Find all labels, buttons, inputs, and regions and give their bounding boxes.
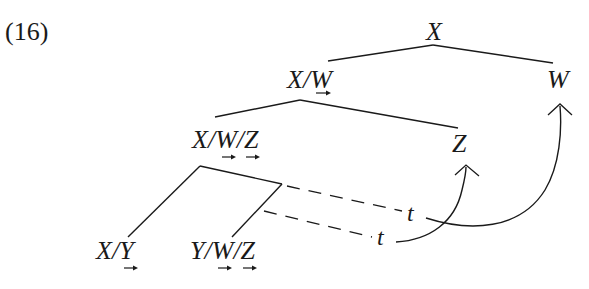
svg-text:X/W: X/W <box>286 65 334 94</box>
right-arrow-under-z-icon <box>246 155 260 160</box>
edge-corner-to-ywz <box>232 184 282 237</box>
node-x-over-w-part-x: X <box>286 65 304 94</box>
edge-apex-to-corner <box>200 166 282 184</box>
movement-arrow-to-w <box>426 106 561 226</box>
trace-lower: t <box>377 224 385 250</box>
node-w-label: W <box>547 65 571 94</box>
edge-xw-right <box>300 100 458 128</box>
trace-line-upper <box>287 186 402 211</box>
svg-text:Y/W/Z: Y/W/Z <box>190 236 256 265</box>
node-y-over-w-over-z: Y/W/Z <box>190 236 257 271</box>
edge-root-left <box>328 45 433 61</box>
right-arrow-under-y-icon <box>124 266 138 271</box>
edge-apex-to-xy <box>128 166 200 237</box>
arrowhead-to-z-icon <box>455 165 479 176</box>
syntax-tree-diagram: (16) X X/W W X/W/Z Z <box>0 0 589 289</box>
right-arrow-under-z-icon <box>243 266 257 271</box>
edge-root-right <box>433 45 553 63</box>
node-root-label: X <box>425 17 443 46</box>
right-arrow-under-w-icon <box>218 266 232 271</box>
example-number: (16) <box>5 17 48 46</box>
svg-text:X/Y: X/Y <box>95 236 136 265</box>
node-x-over-w-over-z: X/W/Z <box>191 125 260 160</box>
edge-xw-left <box>215 100 300 117</box>
node-z-label: Z <box>452 129 467 158</box>
trace-line-lower <box>264 211 372 237</box>
trace-upper: t <box>407 200 415 226</box>
right-arrow-under-w-icon <box>222 155 236 160</box>
node-x-over-y: X/Y <box>95 236 138 271</box>
node-x-over-w: X/W <box>286 65 334 96</box>
svg-text:X/W/Z: X/W/Z <box>191 125 259 154</box>
